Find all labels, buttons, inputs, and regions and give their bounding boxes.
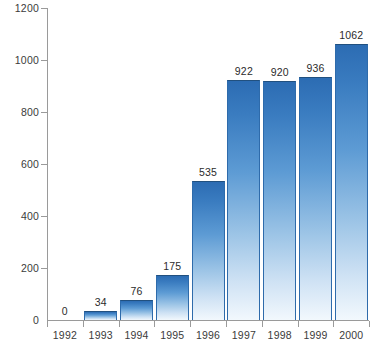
bar [335,44,368,320]
bar [84,311,117,320]
bar [192,181,225,320]
bar-value-label: 936 [294,63,338,74]
bar [299,77,332,320]
bar-value-label: 76 [115,286,159,297]
bar-value-label: 175 [150,261,194,272]
bar [120,300,153,320]
bar-value-label: 535 [186,167,230,178]
bar [227,80,260,320]
bar [263,81,296,320]
bar-value-label: 34 [79,297,123,308]
bar-value-label: 1062 [329,30,373,41]
bars-and-value-labels: 034761755359229209361062 [0,0,376,356]
bar-chart: 020040060080010001200 199219931994199519… [0,0,376,356]
bar [156,275,189,321]
